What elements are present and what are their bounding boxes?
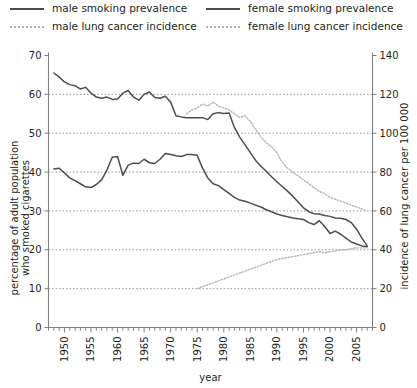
y2-tick-label: 0 [380,322,386,333]
x-tick-label: 1980 [218,337,229,362]
y2-tick-label: 80 [380,167,393,178]
x-tick-label: 1960 [112,337,123,362]
y2-tick-label: 40 [380,244,393,255]
grid-lines [49,94,373,288]
y-tick-label: 70 [29,50,42,61]
y2-tick-label: 140 [380,50,399,61]
x-tick-label: 1970 [165,337,176,362]
x-tick-label: 2000 [324,337,335,362]
y2-tick-label: 100 [380,128,399,139]
chart-svg: 1950195519601965197019751980198519901995… [0,0,417,388]
y-axis-title-line2: who smoked cigarettes [20,160,31,276]
x-tick-label: 2005 [351,337,362,362]
series-female-lung-cancer-incidence [197,248,367,289]
y2-axis-ticks [373,56,377,328]
y-tick-label: 60 [29,89,42,100]
x-tick-label: 1990 [271,337,282,362]
y2-axis-tick-labels: 020406080100120140 [380,50,399,333]
y2-tick-label: 20 [380,283,393,294]
y-tick-label: 0 [35,322,41,333]
x-tick-label: 1950 [59,337,70,362]
chart-plot-area: 1950195519601965197019751980198519901995… [0,0,417,388]
axis-lines [49,53,373,328]
x-axis-ticks [49,328,373,333]
y-axis-title-line1: percentage of adult population [9,141,20,296]
x-tick-label: 1985 [245,337,256,362]
x-tick-label: 1965 [139,337,150,362]
data-series [54,73,367,289]
x-axis-tick-labels: 1950195519601965197019751980198519901995… [59,337,362,362]
y2-tick-label: 120 [380,89,399,100]
chart-root: male smoking prevalence male lung cancer… [0,0,417,388]
x-tick-label: 1995 [298,337,309,362]
y-tick-label: 10 [29,283,42,294]
series-male-smoking-prevalence [54,73,367,246]
x-tick-label: 1955 [85,337,96,362]
series-female-smoking-prevalence [54,153,367,246]
y-axis-ticks [45,56,49,328]
x-axis-title: year [199,372,222,383]
x-tick-label: 1975 [192,337,203,362]
y2-tick-label: 60 [380,206,393,217]
series-male-lung-cancer-incidence [187,102,368,211]
y-tick-label: 50 [29,128,42,139]
y2-axis-title: incidence of lung cancer per 100 000 [399,103,410,290]
